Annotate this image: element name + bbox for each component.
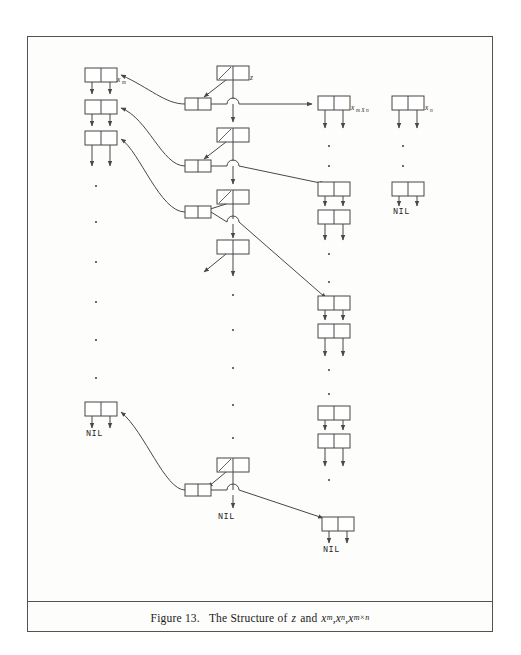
back-pointer-curves <box>121 75 185 490</box>
left-node-group <box>85 68 117 428</box>
right-node-groups <box>318 96 424 543</box>
cons-cell <box>392 96 424 128</box>
label-z: z <box>249 73 253 82</box>
caption-and: and <box>300 612 317 624</box>
nil-center-bottom: NIL <box>218 512 235 522</box>
cons-cell <box>217 128 249 142</box>
caption-var-xmn-sub: m×n <box>354 613 370 622</box>
label-xn-sub: n <box>430 107 433 113</box>
cons-cell <box>217 240 249 254</box>
caption-text: The Structure of <box>209 612 288 624</box>
cons-cell <box>85 402 117 428</box>
cons-cell-small <box>185 160 211 172</box>
cons-cell <box>318 210 350 240</box>
cons-cell <box>217 66 249 80</box>
nil-left-bottom: NIL <box>86 429 103 439</box>
caption-divider <box>27 601 493 602</box>
label-xmn-sub: m X n <box>356 107 369 113</box>
cons-cell <box>318 406 350 430</box>
center-spine-group <box>185 66 326 518</box>
cons-cell <box>318 434 350 466</box>
caption-figure-number: Figure 13. <box>151 612 200 624</box>
figure-drawing: x m z x m X n x n NIL NIL NIL NIL <box>0 0 521 655</box>
text-labels: x m z x m X n x n NIL NIL NIL NIL <box>86 73 433 555</box>
label-xm-sub: m <box>122 79 126 85</box>
figure-caption: Figure 13. The Structure of z and xm,xn,… <box>27 603 493 632</box>
cons-cell <box>217 458 249 472</box>
figure-root: x m z x m X n x n NIL NIL NIL NIL Figure… <box>0 0 521 655</box>
label-xn: x <box>424 103 429 112</box>
cons-cell <box>318 182 350 206</box>
cons-cell <box>318 324 350 356</box>
label-xmn: x <box>350 103 355 112</box>
caption-var-z: z <box>291 612 296 624</box>
cons-cell-small <box>185 98 211 110</box>
cons-cell <box>318 296 350 320</box>
cons-cell <box>85 100 117 126</box>
nil-right-mid: NIL <box>393 207 410 217</box>
nil-right-bottom: NIL <box>323 545 340 555</box>
cons-cell-small <box>185 484 211 496</box>
cons-cell <box>392 182 424 206</box>
label-xm: x <box>116 75 121 84</box>
cons-cell-small <box>185 206 211 218</box>
cons-cell <box>322 517 354 543</box>
cons-cell <box>318 96 350 128</box>
cons-cell <box>85 68 117 94</box>
cons-cell <box>217 190 249 204</box>
cons-cell <box>85 131 117 166</box>
